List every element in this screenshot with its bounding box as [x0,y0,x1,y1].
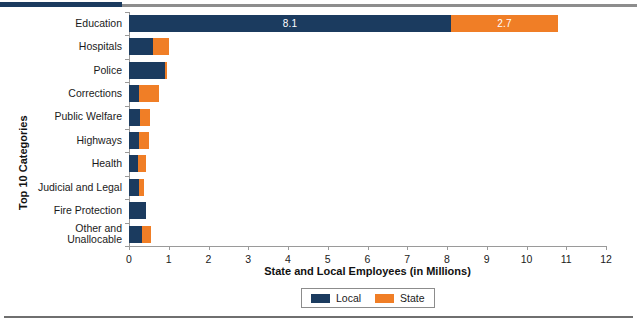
bar-segment-state[interactable] [142,226,151,243]
x-axis-tick [487,246,488,250]
bar-value-label: 8.1 [129,15,451,32]
y-axis-tick [125,59,129,60]
stacked-bar[interactable] [129,202,146,219]
bar-segment-state[interactable] [139,179,144,196]
bar-segment-state[interactable] [140,109,150,126]
x-axis-tick [248,246,249,250]
stacked-bar[interactable]: 8.12.7 [129,15,558,32]
x-axis-tick [606,246,607,250]
bar-row[interactable] [129,59,606,82]
chart-legend: LocalState [301,288,435,308]
category-label: Other andUnallocable [0,223,122,246]
x-axis-tick-label: 1 [157,253,181,265]
legend-swatch-icon [375,294,394,303]
x-axis-tick-label: 9 [475,253,499,265]
stacked-bar[interactable] [129,132,149,149]
x-axis-tick-label: 0 [117,253,141,265]
x-axis-tick-label: 3 [236,253,260,265]
category-label: Education [0,18,122,30]
bar-segment-local[interactable] [129,226,142,243]
legend-label: State [400,292,425,304]
stacked-bar[interactable] [129,109,150,126]
bar-row[interactable] [129,129,606,152]
bar-segment-local[interactable] [129,179,139,196]
y-axis-tick [125,129,129,130]
y-axis-tick [125,176,129,177]
x-axis-tick-label: 5 [316,253,340,265]
legend-swatch-icon [311,294,330,303]
bar-row[interactable] [129,176,606,199]
bar-segment-state[interactable]: 2.7 [451,15,558,32]
x-axis-title: State and Local Employees (in Millions) [129,265,606,277]
stacked-bar[interactable] [129,38,169,55]
bar-row[interactable] [129,223,606,246]
stacked-bar[interactable] [129,226,151,243]
bar-row[interactable] [129,199,606,222]
bar-segment-local[interactable]: 8.1 [129,15,451,32]
x-axis-tick [368,246,369,250]
bar-segment-local[interactable] [129,85,139,102]
legend-label: Local [336,292,361,304]
category-label: Corrections [0,88,122,100]
x-axis-tick [288,246,289,250]
bar-segment-state[interactable] [139,85,159,102]
y-axis-tick [125,82,129,83]
y-axis-tick [125,152,129,153]
bar-segment-local[interactable] [129,202,146,219]
x-axis-tick [527,246,528,250]
bar-segment-local[interactable] [129,132,139,149]
bar-row[interactable] [129,106,606,129]
x-axis-tick-label: 12 [594,253,618,265]
bar-segment-local[interactable] [129,38,153,55]
y-axis-tick [125,35,129,36]
bar-segment-state[interactable] [139,132,149,149]
x-axis-tick [407,246,408,250]
category-label: Police [0,65,122,77]
top-divider-accent [0,2,122,7]
bar-row[interactable]: 8.12.7 [129,12,606,35]
bar-segment-state[interactable] [165,62,167,79]
y-axis-tick [125,199,129,200]
stacked-bar[interactable] [129,179,144,196]
bar-segment-state[interactable] [153,38,169,55]
bar-segment-state[interactable] [138,155,146,172]
bar-segment-local[interactable] [129,109,140,126]
x-axis-tick-label: 11 [554,253,578,265]
x-axis-tick-label: 4 [276,253,300,265]
x-axis-tick [447,246,448,250]
bar-row[interactable] [129,35,606,58]
chart-figure: EducationHospitalsPoliceCorrectionsPubli… [0,0,637,332]
x-axis-tick-label: 8 [435,253,459,265]
category-label: Hospitals [0,41,122,53]
x-axis-tick [566,246,567,250]
legend-item-local[interactable]: Local [311,292,361,304]
stacked-bar[interactable] [129,62,167,79]
x-axis-tick [129,246,130,250]
y-axis-title-text: Top 10 Categories [17,115,29,210]
x-axis-tick-label: 10 [515,253,539,265]
bar-row[interactable] [129,82,606,105]
bar-row[interactable] [129,152,606,175]
stacked-bar[interactable] [129,155,146,172]
x-axis-tick-label: 6 [356,253,380,265]
y-axis-tick [125,223,129,224]
y-axis-title: Top 10 Categories [4,60,18,210]
x-axis-tick-label: 2 [197,253,221,265]
x-axis-tick [169,246,170,250]
x-axis-tick-label: 7 [395,253,419,265]
plot-area: 8.12.70123456789101112 [129,12,606,246]
legend-item-state[interactable]: State [375,292,425,304]
stacked-bar[interactable] [129,85,159,102]
bar-value-label: 2.7 [451,15,558,32]
bar-segment-local[interactable] [129,155,138,172]
bar-segment-local[interactable] [129,62,165,79]
x-axis-tick [209,246,210,250]
y-axis-tick [125,12,129,13]
y-axis-tick [125,106,129,107]
x-axis-tick [328,246,329,250]
bottom-divider [4,316,633,318]
